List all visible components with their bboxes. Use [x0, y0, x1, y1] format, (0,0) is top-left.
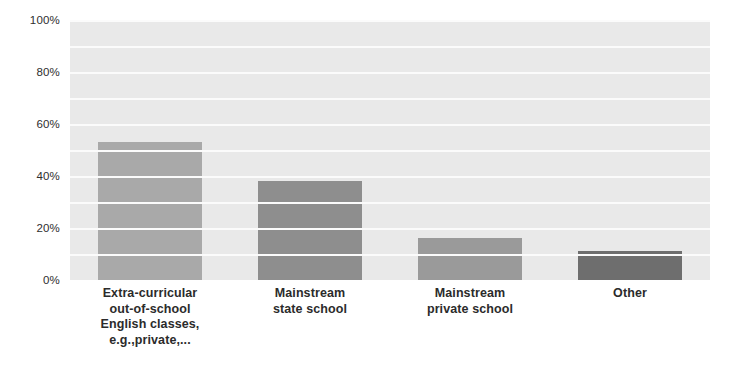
- x-axis-category-label: Mainstreamstate school: [230, 286, 390, 317]
- y-axis-tick-label: 0%: [43, 274, 60, 286]
- y-axis-tick-label: 60%: [36, 118, 60, 130]
- x-axis-category-label-line: out-of-school: [70, 302, 230, 318]
- x-axis-category-label-line: Mainstream: [230, 286, 390, 302]
- x-axis-category-label-line: Mainstream: [390, 286, 550, 302]
- x-axis: Extra-curricularout-of-schoolEnglish cla…: [70, 286, 710, 382]
- bar-chart: 0%20%40%60%80%100% Extra-curricularout-o…: [0, 0, 730, 384]
- y-axis: 0%20%40%60%80%100%: [0, 0, 66, 384]
- plot-area: [70, 20, 710, 280]
- x-axis-category-label: Mainstreamprivate school: [390, 286, 550, 317]
- bar[interactable]: [258, 181, 362, 280]
- bar[interactable]: [418, 238, 522, 280]
- x-axis-category-label-line: English classes,: [70, 317, 230, 333]
- bar[interactable]: [98, 142, 202, 280]
- bars-layer: [70, 20, 710, 280]
- x-axis-category-label-line: Other: [550, 286, 710, 302]
- y-axis-tick-label: 80%: [36, 66, 60, 78]
- x-axis-category-label-line: state school: [230, 302, 390, 318]
- y-axis-tick-label: 40%: [36, 170, 60, 182]
- x-axis-category-label-line: e.g.,private,...: [70, 333, 230, 349]
- bar[interactable]: [578, 251, 682, 280]
- x-axis-category-label: Other: [550, 286, 710, 302]
- x-axis-category-label: Extra-curricularout-of-schoolEnglish cla…: [70, 286, 230, 348]
- x-axis-category-label-line: private school: [390, 302, 550, 318]
- x-axis-category-label-line: Extra-curricular: [70, 286, 230, 302]
- y-axis-tick-label: 100%: [30, 14, 60, 26]
- y-axis-tick-label: 20%: [36, 222, 60, 234]
